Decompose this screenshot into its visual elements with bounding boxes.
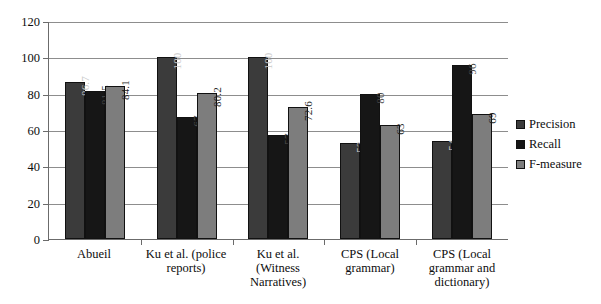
bar-group: 549669 bbox=[416, 22, 508, 239]
legend-swatch-icon bbox=[516, 160, 525, 169]
legend-label: Recall bbox=[529, 138, 561, 151]
bar-recall: 67 bbox=[177, 117, 197, 239]
legend-label: Precision bbox=[529, 118, 576, 131]
x-axis-category-label: Ku et al. (Witness Narratives) bbox=[232, 247, 324, 289]
bar-group: 1006780.2 bbox=[141, 22, 233, 239]
plot-area: 020406080100120 86.781.584.11006780.2100… bbox=[48, 22, 508, 240]
y-axis-tick-label: 40 bbox=[28, 161, 41, 174]
x-axis-tick bbox=[324, 239, 325, 245]
bar-value-label: 63 bbox=[390, 123, 410, 134]
bar-f-measure: 72.6 bbox=[288, 107, 308, 239]
y-axis-tick-label: 0 bbox=[34, 234, 40, 247]
bar-value-label: 72.6 bbox=[298, 101, 318, 121]
x-axis-category-label: Ku et al. (police reports) bbox=[140, 247, 232, 289]
legend-item-precision[interactable]: Precision bbox=[516, 118, 582, 131]
y-axis-tick-label: 120 bbox=[21, 16, 40, 29]
legend-item-f-measure[interactable]: F-measure bbox=[516, 158, 582, 171]
bar-f-measure: 84.1 bbox=[105, 86, 125, 239]
legend-swatch-icon bbox=[516, 120, 525, 129]
bar-recall: 81.5 bbox=[85, 91, 105, 239]
legend: PrecisionRecallF-measure bbox=[516, 118, 582, 178]
bar-value-label: 96 bbox=[462, 63, 482, 74]
x-axis-tick bbox=[233, 239, 234, 245]
bar-f-measure: 80.2 bbox=[197, 93, 217, 239]
bar-precision: 53 bbox=[340, 143, 360, 239]
y-axis-tick-label: 100 bbox=[21, 52, 40, 65]
bar-recall: 80 bbox=[360, 94, 380, 239]
x-axis-labels: AbueilKu et al. (police reports)Ku et al… bbox=[48, 247, 508, 289]
bar-value-label: 100 bbox=[258, 53, 278, 70]
x-axis-tick bbox=[416, 239, 417, 245]
bar-f-measure: 69 bbox=[472, 114, 492, 239]
y-axis-tick-label: 20 bbox=[28, 197, 41, 210]
bar-group: 1005772.6 bbox=[233, 22, 325, 239]
bar-value-label: 80.2 bbox=[207, 87, 227, 107]
legend-swatch-icon bbox=[516, 140, 525, 149]
bar-cluster: 86.781.584.1 bbox=[65, 22, 125, 239]
x-axis-tick bbox=[141, 239, 142, 245]
bar-cluster: 549669 bbox=[432, 22, 492, 239]
bar-value-label: 69 bbox=[482, 112, 502, 123]
x-axis-category-label: CPS (Local grammar) bbox=[324, 247, 416, 289]
bar-group: 538063 bbox=[324, 22, 416, 239]
legend-label: F-measure bbox=[529, 158, 582, 171]
bar-cluster: 538063 bbox=[340, 22, 400, 239]
bar-precision: 86.7 bbox=[65, 82, 85, 240]
bar-recall: 96 bbox=[452, 65, 472, 239]
y-axis-tick-label: 80 bbox=[28, 88, 41, 101]
bar-precision: 54 bbox=[432, 141, 452, 239]
bar-precision: 100 bbox=[248, 57, 268, 239]
bar-value-label: 80 bbox=[370, 92, 390, 103]
x-axis-category-label: CPS (Local grammar and dictionary) bbox=[416, 247, 508, 289]
bar-recall: 57 bbox=[268, 135, 288, 239]
bar-value-label: 100 bbox=[167, 53, 187, 70]
bar-chart: 020406080100120 86.781.584.11006780.2100… bbox=[0, 0, 601, 304]
bar-value-label: 84.1 bbox=[115, 80, 135, 100]
y-axis-tick-label: 60 bbox=[28, 125, 41, 138]
bar-cluster: 1006780.2 bbox=[157, 22, 217, 239]
y-axis-tick bbox=[43, 240, 49, 241]
legend-item-recall[interactable]: Recall bbox=[516, 138, 582, 151]
bar-groups: 86.781.584.11006780.21005772.65380635496… bbox=[49, 22, 508, 239]
bar-group: 86.781.584.1 bbox=[49, 22, 141, 239]
bar-f-measure: 63 bbox=[380, 125, 400, 239]
bar-cluster: 1005772.6 bbox=[248, 22, 308, 239]
bar-precision: 100 bbox=[157, 57, 177, 239]
x-axis-category-label: Abueil bbox=[48, 247, 140, 289]
